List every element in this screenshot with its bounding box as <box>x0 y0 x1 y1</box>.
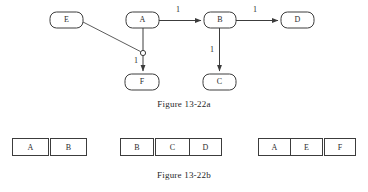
junction-circle-icon <box>140 50 145 55</box>
table-aef: A E F <box>258 138 356 156</box>
figure-page: 1 1 1 1 <box>0 0 368 192</box>
table-bcd-cell-c[interactable]: C <box>155 138 190 156</box>
edge-label-b-to-c: 1 <box>210 45 214 54</box>
node-f[interactable]: F <box>125 74 159 90</box>
node-f-label: F <box>140 77 145 86</box>
edge-label-a-to-f: 1 <box>134 56 138 65</box>
node-d[interactable]: D <box>281 12 314 28</box>
edge-label-a-to-b: 1 <box>176 5 180 14</box>
table-aef-cell-f[interactable]: F <box>324 138 356 156</box>
node-c-label: C <box>217 77 222 86</box>
caption-figure-13-22a: Figure 13-22a <box>0 99 368 109</box>
node-c[interactable]: C <box>203 74 236 90</box>
node-e-label: E <box>64 15 69 24</box>
edge-a-to-b: 1 <box>159 5 201 21</box>
table-ab-cell-b[interactable]: B <box>50 138 87 156</box>
edge-b-to-c: 1 <box>210 28 220 71</box>
table-aef-cell-a[interactable]: A <box>258 138 291 156</box>
tables-figure-13-22b: A B B C D A E F <box>0 138 368 160</box>
node-a[interactable]: A <box>126 12 159 28</box>
table-bcd-cell-d[interactable]: D <box>189 138 222 156</box>
table-bcd-cell-b[interactable]: B <box>120 138 154 156</box>
edge-label-b-to-d: 1 <box>253 5 257 14</box>
node-e[interactable]: E <box>50 12 83 28</box>
node-b[interactable]: B <box>204 12 236 28</box>
table-ab: A B <box>12 138 87 156</box>
edge-a-to-f: 1 <box>134 28 143 71</box>
edge-b-to-d: 1 <box>236 5 278 21</box>
table-ab-cell-a[interactable]: A <box>12 138 49 156</box>
caption-figure-13-22b: Figure 13-22b <box>0 170 368 180</box>
diagram-figure-13-22a: 1 1 1 1 <box>0 0 368 96</box>
node-d-label: D <box>295 15 301 24</box>
node-a-label: A <box>140 15 146 24</box>
table-aef-cell-e[interactable]: E <box>290 138 323 156</box>
node-b-label: B <box>217 15 222 24</box>
table-bcd: B C D <box>120 138 222 156</box>
